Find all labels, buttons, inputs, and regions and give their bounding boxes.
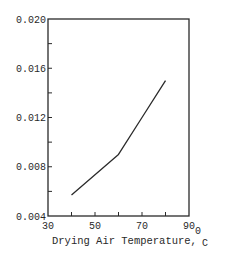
x-tick-label: 70 xyxy=(136,221,148,232)
x-tick-label: 30 xyxy=(42,221,54,232)
x-tick-label: 90 xyxy=(183,221,195,232)
x-axis-tick-labels: 30507090 xyxy=(42,221,195,232)
y-tick-label: 0.016 xyxy=(16,64,46,75)
x-axis-unit-celsius: C xyxy=(202,238,208,249)
chart: 0.0200.0160.0120.0080.004 30507090 Dryin… xyxy=(0,0,225,258)
y-axis-tick-labels: 0.0200.0160.0120.0080.004 xyxy=(16,15,46,223)
y-tick-label: 0.012 xyxy=(16,113,46,124)
y-tick-label: 0.008 xyxy=(16,162,46,173)
x-axis-unit-degree: 0 xyxy=(195,226,201,237)
line-chart: 0.0200.0160.0120.0080.004 30507090 Dryin… xyxy=(0,0,225,258)
plot-frame xyxy=(48,19,189,216)
x-axis-title: Drying Air Temperature, xyxy=(52,235,197,247)
data-series-line xyxy=(72,81,166,196)
y-tick-label: 0.020 xyxy=(16,15,46,26)
x-tick-label: 50 xyxy=(89,221,101,232)
